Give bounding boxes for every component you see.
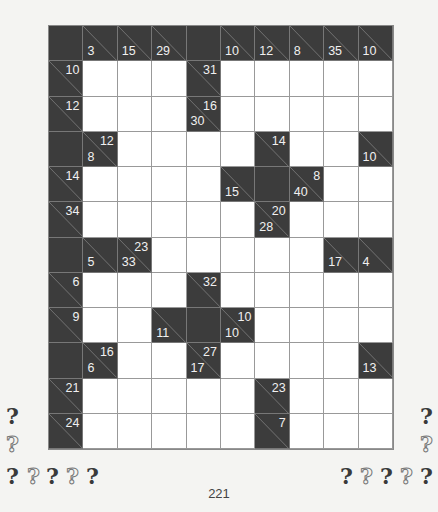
entry-cell[interactable] [255, 343, 289, 378]
entry-cell[interactable] [290, 61, 324, 96]
entry-cell[interactable] [152, 132, 186, 167]
across-clue: 32 [203, 276, 217, 289]
down-clue: 30 [191, 115, 205, 128]
entry-cell[interactable] [187, 238, 221, 273]
clue-cell: 6 [49, 273, 83, 308]
entry-cell[interactable] [187, 167, 221, 202]
entry-cell[interactable] [324, 273, 358, 308]
entry-cell[interactable] [152, 238, 186, 273]
entry-cell[interactable] [359, 273, 393, 308]
entry-cell[interactable] [118, 343, 152, 378]
entry-cell[interactable] [359, 379, 393, 414]
entry-cell[interactable] [290, 202, 324, 237]
entry-cell[interactable] [152, 61, 186, 96]
clue-cell: 9 [49, 308, 83, 343]
entry-cell[interactable] [187, 132, 221, 167]
entry-cell[interactable] [221, 132, 255, 167]
entry-cell[interactable] [187, 379, 221, 414]
entry-cell[interactable] [324, 97, 358, 132]
across-clue: 21 [65, 382, 79, 395]
entry-cell[interactable] [221, 343, 255, 378]
clue-cell: 12 [255, 26, 289, 61]
entry-cell[interactable] [187, 202, 221, 237]
blocked-cell [49, 132, 83, 167]
entry-cell[interactable] [221, 238, 255, 273]
entry-cell[interactable] [83, 414, 117, 449]
entry-cell[interactable] [324, 343, 358, 378]
entry-cell[interactable] [221, 97, 255, 132]
entry-cell[interactable] [324, 308, 358, 343]
entry-cell[interactable] [118, 379, 152, 414]
entry-cell[interactable] [359, 202, 393, 237]
entry-cell[interactable] [83, 308, 117, 343]
entry-cell[interactable] [221, 379, 255, 414]
question-mark-icon: ? [380, 465, 393, 487]
entry-cell[interactable] [290, 414, 324, 449]
entry-cell[interactable] [83, 97, 117, 132]
entry-cell[interactable] [152, 202, 186, 237]
entry-cell[interactable] [359, 167, 393, 202]
entry-cell[interactable] [255, 308, 289, 343]
across-clue: 6 [72, 276, 79, 289]
entry-cell[interactable] [324, 167, 358, 202]
entry-cell[interactable] [290, 343, 324, 378]
entry-cell[interactable] [118, 61, 152, 96]
entry-cell[interactable] [118, 273, 152, 308]
entry-cell[interactable] [255, 273, 289, 308]
entry-cell[interactable] [221, 61, 255, 96]
question-mark-icon: ? [420, 433, 433, 455]
entry-cell[interactable] [152, 379, 186, 414]
question-mark-icon: ? [46, 465, 59, 487]
entry-cell[interactable] [359, 97, 393, 132]
entry-cell[interactable] [359, 308, 393, 343]
entry-cell[interactable] [290, 97, 324, 132]
entry-cell[interactable] [290, 132, 324, 167]
entry-cell[interactable] [324, 414, 358, 449]
entry-cell[interactable] [290, 273, 324, 308]
entry-cell[interactable] [221, 273, 255, 308]
entry-cell[interactable] [290, 308, 324, 343]
across-clue: 10 [237, 311, 251, 324]
entry-cell[interactable] [118, 202, 152, 237]
entry-cell[interactable] [152, 273, 186, 308]
down-clue: 10 [363, 151, 377, 164]
entry-cell[interactable] [324, 132, 358, 167]
question-mark-icon: ? [360, 465, 373, 487]
entry-cell[interactable] [118, 97, 152, 132]
entry-cell[interactable] [324, 379, 358, 414]
entry-cell[interactable] [118, 132, 152, 167]
entry-cell[interactable] [118, 167, 152, 202]
entry-cell[interactable] [152, 167, 186, 202]
question-mark-icon: ? [420, 465, 433, 487]
entry-cell[interactable] [83, 202, 117, 237]
entry-cell[interactable] [83, 61, 117, 96]
entry-cell[interactable] [83, 379, 117, 414]
clue-cell: 31 [187, 61, 221, 96]
entry-cell[interactable] [221, 414, 255, 449]
entry-cell[interactable] [324, 61, 358, 96]
clue-cell: 10 [359, 26, 393, 61]
entry-cell[interactable] [359, 61, 393, 96]
entry-cell[interactable] [152, 414, 186, 449]
across-clue: 24 [65, 417, 79, 430]
clue-cell: 10 [221, 26, 255, 61]
question-mark-icon: ? [86, 465, 99, 487]
entry-cell[interactable] [221, 202, 255, 237]
entry-cell[interactable] [83, 167, 117, 202]
entry-cell[interactable] [255, 97, 289, 132]
across-clue: 12 [65, 100, 79, 113]
entry-cell[interactable] [152, 343, 186, 378]
entry-cell[interactable] [255, 238, 289, 273]
entry-cell[interactable] [290, 238, 324, 273]
entry-cell[interactable] [324, 202, 358, 237]
entry-cell[interactable] [255, 61, 289, 96]
entry-cell[interactable] [359, 414, 393, 449]
entry-cell[interactable] [118, 308, 152, 343]
entry-cell[interactable] [187, 414, 221, 449]
entry-cell[interactable] [83, 273, 117, 308]
entry-cell[interactable] [290, 379, 324, 414]
entry-cell[interactable] [118, 414, 152, 449]
down-clue: 15 [225, 186, 239, 199]
entry-cell[interactable] [152, 97, 186, 132]
down-clue: 10 [225, 327, 239, 340]
